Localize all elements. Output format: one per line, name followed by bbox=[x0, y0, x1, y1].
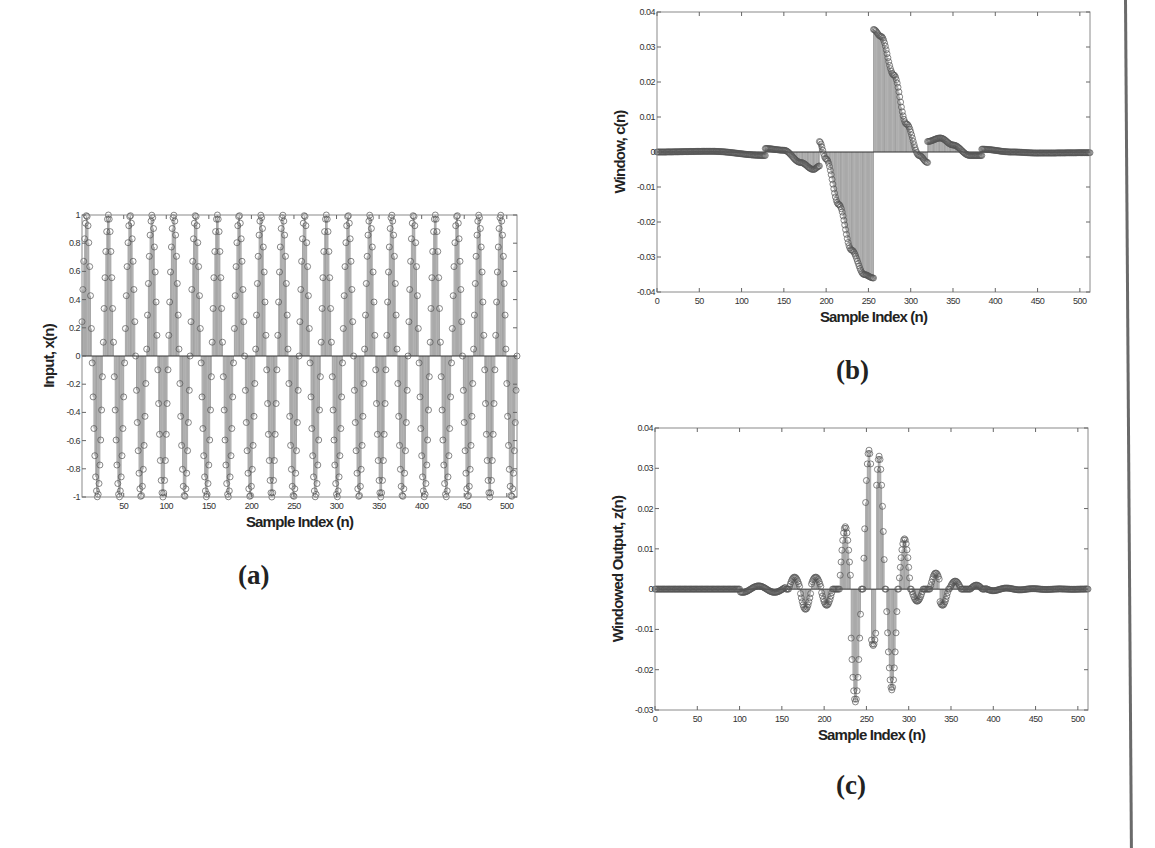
y-tick-label: -0.03 bbox=[637, 252, 656, 262]
x-tick-label: 100 bbox=[733, 714, 747, 724]
x-tick-label: 150 bbox=[777, 296, 791, 306]
x-tick-label: 50 bbox=[119, 501, 129, 511]
y-tick-label: 0.03 bbox=[639, 42, 655, 52]
x-tick-label: 450 bbox=[1029, 714, 1043, 724]
circle-markers bbox=[652, 447, 1091, 705]
y-tick-label: 0.04 bbox=[639, 7, 655, 17]
x-tick-label: 300 bbox=[902, 714, 916, 724]
x-tick-label: 450 bbox=[457, 501, 471, 511]
x-tick-label: 200 bbox=[817, 714, 831, 724]
y-tick-label: 1 bbox=[75, 210, 80, 220]
x-tick-label: 200 bbox=[245, 501, 259, 511]
x-tick-label: 350 bbox=[946, 296, 960, 306]
y-tick-label: 0.01 bbox=[637, 544, 653, 554]
x-tick-label: 400 bbox=[987, 714, 1001, 724]
x-tick-label: 500 bbox=[500, 501, 514, 511]
x-tick-label: 400 bbox=[989, 296, 1003, 306]
y-tick-label: 0 bbox=[648, 584, 653, 594]
x-tick-label: 500 bbox=[1071, 714, 1085, 724]
y-tick-label: 0.4 bbox=[69, 295, 81, 305]
plot-area bbox=[79, 212, 520, 500]
y-tick-label: -1 bbox=[73, 492, 80, 502]
y-tick-label: 0 bbox=[650, 147, 655, 157]
x-axis-label: Sample Index (n) bbox=[246, 513, 354, 530]
x-tick-label: 350 bbox=[944, 714, 958, 724]
y-tick-label: -0.03 bbox=[635, 705, 654, 715]
x-tick-label: 100 bbox=[735, 296, 749, 306]
caption-a: (a) bbox=[238, 560, 269, 591]
x-tick-label: 0 bbox=[653, 714, 658, 724]
caption-b: (b) bbox=[836, 355, 869, 386]
x-tick-label: 100 bbox=[160, 501, 174, 511]
x-tick-label: 350 bbox=[372, 501, 386, 511]
x-axis-label: Sample Index (n) bbox=[820, 308, 928, 325]
x-tick-label: 250 bbox=[860, 714, 874, 724]
x-tick-label: 300 bbox=[330, 501, 344, 511]
x-tick-label: 0 bbox=[655, 296, 660, 306]
axes-box bbox=[655, 428, 1088, 710]
y-tick-label: 0.8 bbox=[69, 238, 81, 248]
x-tick-label: 300 bbox=[904, 296, 918, 306]
y-tick-label: -0.02 bbox=[635, 665, 654, 675]
x-tick-label: 400 bbox=[415, 501, 429, 511]
y-tick-label: -0.8 bbox=[66, 464, 80, 474]
x-tick-label: 200 bbox=[819, 296, 833, 306]
figure-a: 50100150200250300350400450500-1-0.8-0.6-… bbox=[0, 0, 560, 848]
y-tick-label: 0 bbox=[75, 351, 80, 361]
x-tick-label: 50 bbox=[695, 296, 705, 306]
y-tick-label: 0.6 bbox=[69, 266, 81, 276]
plot-area bbox=[654, 27, 1093, 282]
x-tick-label: 450 bbox=[1031, 296, 1045, 306]
y-axis-label: Window, c(n) bbox=[611, 110, 628, 194]
x-tick-label: 150 bbox=[775, 714, 789, 724]
y-tick-label: -0.04 bbox=[637, 287, 656, 297]
y-tick-label: 0.2 bbox=[69, 323, 81, 333]
y-tick-label: -0.4 bbox=[66, 407, 80, 417]
y-tick-label: -0.01 bbox=[637, 182, 656, 192]
chart-a-input-signal: 50100150200250300350400450500-1-0.8-0.6-… bbox=[0, 0, 560, 848]
x-tick-label: 150 bbox=[202, 501, 216, 511]
x-tick-label: 500 bbox=[1073, 296, 1087, 306]
page-divider-line bbox=[1124, 0, 1133, 848]
y-tick-label: -0.01 bbox=[635, 624, 654, 634]
x-tick-label: 250 bbox=[862, 296, 876, 306]
stems bbox=[655, 450, 1088, 702]
y-tick-label: -0.2 bbox=[66, 379, 80, 389]
y-axis-label: Input, x(n) bbox=[40, 323, 57, 387]
y-tick-label: 0.04 bbox=[637, 423, 653, 433]
caption-c: (c) bbox=[836, 770, 866, 801]
x-axis-label: Sample Index (n) bbox=[818, 726, 926, 743]
y-axis-label: Windowed Output, z(n) bbox=[609, 495, 626, 642]
y-tick-label: -0.6 bbox=[66, 436, 80, 446]
y-tick-label: 0.02 bbox=[637, 504, 653, 514]
x-tick-label: 50 bbox=[693, 714, 703, 724]
y-tick-label: -0.02 bbox=[637, 217, 656, 227]
y-tick-label: 0.01 bbox=[639, 112, 655, 122]
plot-area bbox=[652, 447, 1091, 705]
y-tick-label: 0.02 bbox=[639, 77, 655, 87]
x-tick-label: 250 bbox=[287, 501, 301, 511]
y-tick-label: 0.03 bbox=[637, 463, 653, 473]
